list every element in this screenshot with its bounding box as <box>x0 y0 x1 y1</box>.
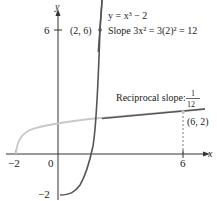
x-axis-label: x <box>207 148 213 159</box>
reciprocal-denominator: 12 <box>187 100 195 109</box>
tick-label-x0: 0 <box>48 157 54 169</box>
tick-label-ym2: −2 <box>38 188 50 200</box>
point-2-6 <box>98 28 102 32</box>
curve-equation: y = x³ − 2 <box>108 10 147 21</box>
point-b-label: (6, 2) <box>187 116 209 128</box>
chart-svg: y x 6 −2 −2 0 6 y = x³ − 2 (2, 6) Slope … <box>0 0 217 201</box>
point-6-2 <box>181 110 185 114</box>
reciprocal-annotation: Reciprocal slope: <box>116 92 186 103</box>
slope-annotation: Slope 3x² = 3(2)² = 12 <box>108 25 197 37</box>
tick-label-xm2: −2 <box>8 157 20 169</box>
chart-figure: y x 6 −2 −2 0 6 y = x³ − 2 (2, 6) Slope … <box>0 0 217 201</box>
y-axis-label: y <box>54 1 60 12</box>
tick-label-x6: 6 <box>180 157 186 169</box>
reciprocal-numerator: 1 <box>191 89 195 98</box>
inverse-curve <box>16 109 205 154</box>
tick-label-y6: 6 <box>44 24 50 36</box>
point-a-label: (2, 6) <box>70 25 92 37</box>
